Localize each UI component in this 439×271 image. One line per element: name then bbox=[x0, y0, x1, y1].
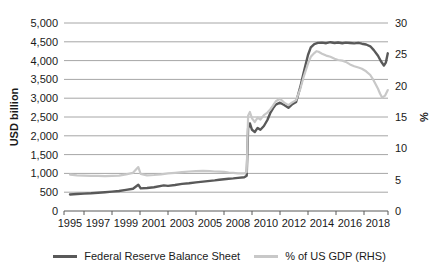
legend: Federal Reserve Balance Sheet % of US GD… bbox=[0, 248, 439, 264]
right-axis-tick: 20 bbox=[395, 80, 425, 92]
plot-area bbox=[0, 0, 439, 271]
x-axis-tick: 2001 bbox=[140, 217, 168, 229]
left-axis-tick: 1,000 bbox=[0, 167, 58, 179]
left-axis-tick: 3,500 bbox=[0, 73, 58, 85]
x-axis-tick: 1999 bbox=[112, 217, 140, 229]
x-axis-tick: 2016 bbox=[336, 217, 364, 229]
left-axis-tick: 4,500 bbox=[0, 36, 58, 48]
left-axis-tick: 4,000 bbox=[0, 55, 58, 67]
gdp-percent-line bbox=[70, 51, 388, 176]
x-axis-tick: 2010 bbox=[252, 217, 280, 229]
legend-item-gdp-pct: % of US GDP (RHS) bbox=[254, 250, 386, 262]
right-axis-tick: 10 bbox=[395, 142, 425, 154]
left-axis-tick: 0 bbox=[0, 205, 58, 217]
x-axis-tick: 2018 bbox=[364, 217, 392, 229]
left-axis-tick: 1,500 bbox=[0, 149, 58, 161]
left-axis-tick: 2,500 bbox=[0, 111, 58, 123]
legend-item-balance-sheet: Federal Reserve Balance Sheet bbox=[53, 250, 240, 262]
right-axis-tick: 5 bbox=[395, 174, 425, 186]
left-axis-tick: 2,000 bbox=[0, 130, 58, 142]
right-axis-tick: 15 bbox=[395, 111, 425, 123]
gdp-percent-line-swatch bbox=[254, 255, 278, 258]
x-axis-tick: 2012 bbox=[280, 217, 308, 229]
right-axis-tick: 25 bbox=[395, 48, 425, 60]
left-axis-tick: 3,000 bbox=[0, 92, 58, 104]
x-axis-tick: 1995 bbox=[56, 217, 84, 229]
x-axis-tick: 2005 bbox=[196, 217, 224, 229]
fed-balance-sheet-chart: USD billion % 5,0004,5004,0003,5003,0002… bbox=[0, 0, 439, 271]
balance-sheet-line-swatch bbox=[53, 255, 77, 258]
x-axis-tick: 2014 bbox=[308, 217, 336, 229]
x-axis-tick: 2008 bbox=[224, 217, 252, 229]
left-axis-tick: 5,000 bbox=[0, 17, 58, 29]
left-axis-tick: 500 bbox=[0, 186, 58, 198]
right-axis-tick: 30 bbox=[395, 17, 425, 29]
legend-label-balance-sheet: Federal Reserve Balance Sheet bbox=[84, 250, 240, 262]
legend-label-gdp-pct: % of US GDP (RHS) bbox=[285, 250, 386, 262]
x-axis-tick: 2003 bbox=[168, 217, 196, 229]
x-axis-tick: 1997 bbox=[84, 217, 112, 229]
right-axis-tick: 0 bbox=[395, 205, 425, 217]
